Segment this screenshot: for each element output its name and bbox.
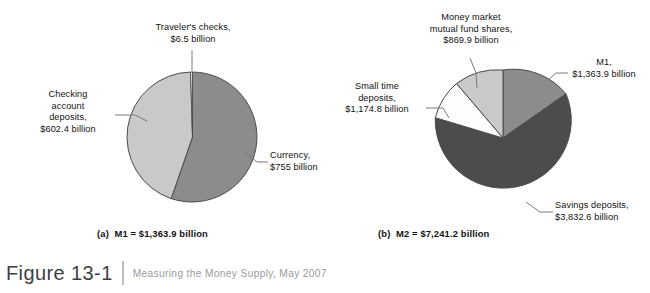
label-travelers-checks: Traveler's checks, $6.5 billion [132, 22, 254, 45]
label-checking-account-deposits: Checking account deposits, $602.4 billio… [20, 89, 116, 135]
label-money-market-mutual-fund-shares: Money market mutual fund shares, $869.9 … [403, 12, 539, 47]
pie-chart-m1 [0, 0, 650, 293]
label-small-time-deposits: Small time deposits, $1,174.8 billion [327, 81, 427, 116]
caption-panel-a: (a) M1 = $1,363.9 billion [97, 228, 208, 239]
caption-panel-b: (b) M2 = $7,241.2 billion [378, 228, 489, 239]
label-savings-deposits: Savings deposits, $3,832.6 billion [555, 200, 650, 223]
figure-description: Measuring the Money Supply, May 2007 [133, 268, 327, 279]
leader-line-savings [526, 202, 553, 212]
figure-title-divider [122, 261, 124, 285]
label-m1: M1, $1,363.9 billion [560, 57, 648, 80]
figure-title-bar: Figure 13-1 Measuring the Money Supply, … [6, 261, 327, 285]
figure-number: Figure 13-1 [6, 262, 113, 285]
label-currency: Currency, $755 billion [270, 150, 380, 173]
figure-canvas: Traveler's checks, $6.5 billion Checking… [0, 0, 650, 293]
